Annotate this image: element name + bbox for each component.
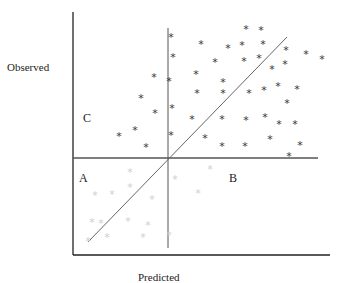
data-point-star: * <box>219 114 225 125</box>
data-point-star: * <box>166 76 172 87</box>
data-point-star: * <box>194 88 200 99</box>
data-point-star: * <box>202 133 208 144</box>
data-point-star: * <box>143 142 149 153</box>
data-point-star: * <box>256 53 262 64</box>
data-point-star: * <box>243 24 249 35</box>
data-point-star: * <box>92 190 98 201</box>
quadrant-label-b: B <box>229 171 237 186</box>
data-point-star: * <box>109 189 115 200</box>
data-point-star: * <box>261 85 267 96</box>
data-point-star: * <box>168 130 174 141</box>
data-point-star: * <box>169 103 175 114</box>
data-point-star: * <box>275 81 281 92</box>
data-point-star: * <box>193 69 199 80</box>
data-point-star: * <box>116 131 122 142</box>
data-point-star: * <box>138 93 144 104</box>
data-point-star: * <box>294 84 300 95</box>
data-point-star: * <box>98 218 104 229</box>
data-point-star: * <box>172 174 178 185</box>
data-point-star: * <box>89 217 95 228</box>
data-point-star: * <box>212 57 218 68</box>
y-axis-title: Observed <box>7 61 49 73</box>
x-axis-title: Predicted <box>138 271 180 283</box>
data-point-star: * <box>303 49 309 60</box>
data-point-star: * <box>276 119 282 130</box>
data-point-star: * <box>239 40 245 51</box>
data-point-star: * <box>297 140 303 151</box>
data-point-star: * <box>283 45 289 56</box>
data-point-star: * <box>145 220 151 231</box>
data-point-star: * <box>241 56 247 67</box>
data-point-star: * <box>170 52 176 63</box>
data-point-star: * <box>132 125 138 136</box>
data-point-star: * <box>104 232 110 243</box>
data-point-star: * <box>140 232 146 243</box>
data-point-star: * <box>127 167 133 178</box>
data-point-star: * <box>292 119 298 130</box>
data-point-star: * <box>168 32 174 43</box>
data-point-star: * <box>151 72 157 83</box>
data-point-star: * <box>246 88 252 99</box>
data-point-star: * <box>258 25 264 36</box>
data-point-star: * <box>286 151 292 162</box>
data-point-star: * <box>219 141 225 152</box>
data-point-star: * <box>269 64 275 75</box>
data-point-star: * <box>284 98 290 109</box>
data-point-star: * <box>189 114 195 125</box>
data-point-star: * <box>225 43 231 54</box>
data-point-star: * <box>243 115 249 126</box>
data-point-star: * <box>127 182 133 193</box>
data-point-star: * <box>166 230 172 241</box>
data-point-star: * <box>207 164 213 175</box>
data-point-star: * <box>152 108 158 119</box>
data-point-star: * <box>282 59 288 70</box>
data-point-star: * <box>319 54 325 65</box>
data-point-star: * <box>242 141 248 152</box>
data-point-star: * <box>195 188 201 199</box>
data-point-star: * <box>262 112 268 123</box>
data-point-star: * <box>260 39 266 50</box>
data-point-star: * <box>149 194 155 205</box>
data-point-star: * <box>85 236 91 247</box>
quadrant-label-a: A <box>79 171 88 186</box>
data-point-star: * <box>267 134 273 145</box>
quadrant-label-c: C <box>83 111 91 126</box>
data-point-star: * <box>125 216 131 227</box>
data-point-star: * <box>220 88 226 99</box>
data-point-star: * <box>198 39 204 50</box>
